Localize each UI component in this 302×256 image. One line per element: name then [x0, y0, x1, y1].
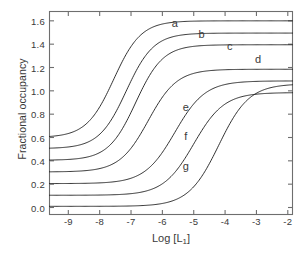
curve-label-f: f: [184, 130, 187, 142]
x-axis-title-bracket: ]: [187, 232, 190, 244]
curve-label-c: c: [227, 40, 233, 52]
x-tick-label: -7: [118, 216, 144, 227]
x-tick-label: -3: [243, 216, 269, 227]
curve-label-b: b: [199, 28, 205, 40]
y-tick-label: 0.0: [17, 202, 45, 213]
x-axis-title-base: Log [L: [152, 232, 183, 244]
chart-figure: 0.00.20.40.60.81.01.21.41.6 -9-8-7-6-5-4…: [0, 0, 302, 256]
plot-frame: [50, 12, 293, 215]
curve-label-g: g: [183, 160, 189, 172]
x-axis-tick-labels: -9-8-7-6-5-4-3-2: [0, 216, 302, 232]
x-tick-label: -9: [55, 216, 81, 227]
x-tick-label: -2: [275, 216, 301, 227]
x-tick-label: -8: [87, 216, 113, 227]
curve-label-a: a: [172, 17, 178, 29]
y-axis-title: Fractional occupancy: [16, 24, 28, 194]
x-tick-label: -5: [181, 216, 207, 227]
x-tick-label: -4: [212, 216, 238, 227]
x-axis-title: Log [L1]: [49, 232, 293, 246]
curve-label-e: e: [183, 101, 189, 113]
curve-label-d: d: [255, 53, 261, 65]
x-tick-label: -6: [149, 216, 175, 227]
